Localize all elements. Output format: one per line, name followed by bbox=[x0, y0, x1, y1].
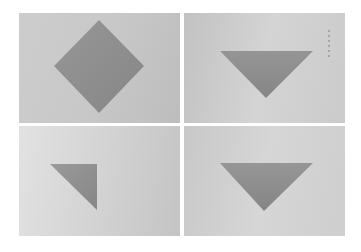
inverted-triangle-shape bbox=[184, 126, 345, 236]
panel-inverted-triangle-bottom bbox=[184, 126, 345, 236]
panel-diamond bbox=[19, 13, 180, 123]
inverted-triangle-shape bbox=[184, 13, 345, 123]
diamond-shape bbox=[19, 13, 180, 123]
right-triangle-shape bbox=[19, 126, 180, 236]
panel-inverted-triangle-top bbox=[184, 13, 345, 123]
panel-right-triangle bbox=[19, 126, 180, 236]
faint-annotation-mark bbox=[328, 30, 330, 60]
